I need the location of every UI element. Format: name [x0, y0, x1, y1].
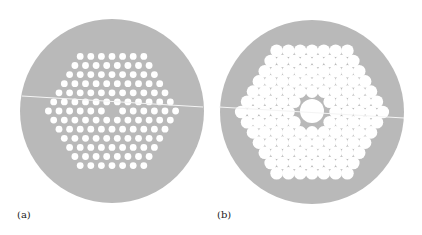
air-hole — [72, 135, 79, 142]
air-hole — [146, 117, 153, 124]
air-hole — [87, 89, 94, 96]
air-hole — [125, 135, 132, 142]
fiber-cross-section-figure — [0, 0, 422, 235]
air-hole — [130, 144, 137, 151]
air-hole — [140, 162, 147, 169]
air-hole — [135, 99, 142, 106]
air-hole — [103, 135, 110, 142]
air-hole — [77, 144, 84, 151]
air-hole — [151, 89, 158, 96]
air-hole — [140, 53, 147, 60]
air-hole — [87, 53, 94, 60]
air-hole — [93, 135, 100, 142]
air-hole — [77, 162, 84, 169]
air-hole — [151, 144, 158, 151]
air-hole — [103, 80, 110, 87]
air-hole — [162, 108, 169, 115]
air-hole — [140, 89, 147, 96]
air-hole — [146, 62, 153, 69]
air-hole — [98, 89, 105, 96]
air-hole — [109, 126, 116, 133]
air-hole — [109, 53, 116, 60]
air-hole — [61, 80, 68, 87]
air-hole — [93, 80, 100, 87]
air-hole — [50, 99, 57, 106]
air-hole — [135, 80, 142, 87]
air-hole — [135, 135, 142, 142]
air-hole — [130, 162, 137, 169]
air-hole — [270, 167, 283, 180]
air-hole — [72, 153, 79, 160]
air-hole — [98, 108, 105, 115]
air-hole — [119, 126, 126, 133]
air-hole — [125, 62, 132, 69]
air-hole — [135, 153, 142, 160]
air-hole — [93, 153, 100, 160]
air-hole — [140, 71, 147, 78]
air-hole — [119, 53, 126, 60]
air-hole — [130, 126, 137, 133]
air-hole — [56, 126, 63, 133]
air-hole — [146, 135, 153, 142]
air-hole — [130, 89, 137, 96]
air-hole — [103, 153, 110, 160]
air-hole — [119, 144, 126, 151]
air-hole — [87, 144, 94, 151]
air-hole — [98, 71, 105, 78]
air-hole — [98, 162, 105, 169]
air-hole — [98, 144, 105, 151]
air-hole — [93, 62, 100, 69]
air-hole — [72, 80, 79, 87]
air-hole — [77, 89, 84, 96]
air-hole — [135, 62, 142, 69]
air-hole — [114, 117, 121, 124]
air-hole — [140, 126, 147, 133]
air-hole — [151, 108, 158, 115]
air-hole — [329, 167, 342, 180]
air-hole — [135, 117, 142, 124]
air-hole — [341, 167, 354, 180]
air-hole — [114, 153, 121, 160]
air-hole — [119, 108, 126, 115]
air-hole — [162, 126, 169, 133]
air-hole — [103, 62, 110, 69]
panel-a-label: (a) — [17, 209, 31, 220]
air-hole — [294, 167, 307, 180]
air-hole — [93, 117, 100, 124]
air-hole — [156, 80, 163, 87]
air-hole — [114, 80, 121, 87]
air-hole — [77, 108, 84, 115]
air-hole — [87, 71, 94, 78]
air-hole — [87, 126, 94, 133]
air-hole — [130, 108, 137, 115]
air-hole — [61, 117, 68, 124]
panel-b-hollow-core-fiber — [219, 20, 404, 204]
air-hole — [66, 144, 73, 151]
air-hole — [82, 62, 89, 69]
air-hole — [282, 167, 295, 180]
air-hole — [114, 135, 121, 142]
air-hole — [140, 108, 147, 115]
air-hole — [109, 89, 116, 96]
air-hole — [72, 117, 79, 124]
air-hole — [109, 71, 116, 78]
air-hole — [56, 89, 63, 96]
air-hole — [66, 108, 73, 115]
air-hole — [87, 108, 94, 115]
air-hole — [172, 108, 179, 115]
air-hole — [77, 71, 84, 78]
air-hole — [125, 117, 132, 124]
air-hole — [103, 99, 110, 106]
air-hole — [151, 126, 158, 133]
air-hole — [66, 71, 73, 78]
air-hole — [109, 162, 116, 169]
air-hole — [306, 167, 319, 180]
air-hole — [50, 117, 57, 124]
air-hole — [45, 108, 52, 115]
air-hole — [66, 126, 73, 133]
air-hole — [82, 117, 89, 124]
air-hole — [125, 80, 132, 87]
air-hole — [82, 80, 89, 87]
air-hole — [82, 135, 89, 142]
air-hole — [156, 117, 163, 124]
